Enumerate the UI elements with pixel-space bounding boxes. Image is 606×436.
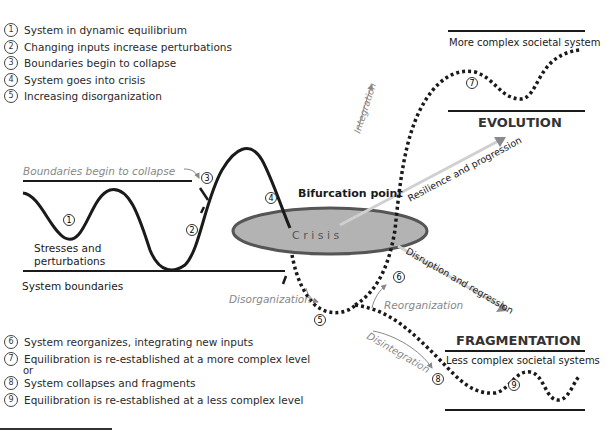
resilience-arrow	[340, 138, 504, 225]
svg-text:1: 1	[66, 216, 71, 225]
marker-icon-4: 4	[266, 193, 277, 204]
integration-path	[355, 50, 580, 305]
less-complex-label: Less complex societal systems	[446, 355, 600, 366]
marker-icon-6: 6	[394, 272, 405, 283]
marker-icon-5: 5	[315, 315, 326, 326]
svg-text:2: 2	[189, 226, 194, 235]
reorganization-label: Reorganization	[384, 299, 463, 311]
marker-icon-2: 2	[187, 225, 198, 236]
more-complex-label: More complex societal system	[449, 37, 600, 48]
marker-icon-8: 8	[433, 374, 444, 385]
system-boundaries-label: System boundaries	[22, 280, 123, 292]
marker-icon-1: 1	[64, 215, 75, 226]
marker-icon-7: 7	[467, 78, 478, 89]
svg-text:8: 8	[435, 375, 440, 384]
svg-text:5: 5	[317, 316, 322, 325]
bifurcation-diagram: Boundaries begin to collapse Stresses an…	[0, 0, 606, 436]
resilience-label: Resilience and progression	[406, 134, 523, 203]
svg-text:3: 3	[204, 174, 209, 183]
stresses-label-2: perturbations	[34, 255, 105, 267]
bifurcation-point-label: Bifurcation point	[298, 187, 403, 200]
svg-text:6: 6	[396, 273, 401, 282]
collapse-pointer-arrow	[184, 169, 199, 178]
marker-icon-3: 3	[202, 173, 213, 184]
disintegration-label: Disintegration	[365, 330, 432, 375]
svg-text:4: 4	[268, 194, 273, 203]
boundaries-collapse-label: Boundaries begin to collapse	[23, 165, 175, 177]
broken-boundary-upper	[200, 188, 208, 200]
broken-boundary-lower	[283, 276, 286, 284]
stresses-label-1: Stresses and	[34, 242, 101, 254]
crisis-label: C r i s i s	[292, 229, 340, 242]
evolution-label: EVOLUTION	[478, 115, 562, 130]
svg-text:7: 7	[469, 79, 474, 88]
broken-boundary-upper	[201, 207, 204, 213]
svg-text:9: 9	[511, 381, 516, 390]
disorganization-label: Disorganization	[229, 293, 311, 305]
marker-icon-9: 9	[509, 380, 520, 391]
fragmentation-label: FRAGMENTATION	[456, 333, 581, 348]
integration-label: Integration	[351, 81, 378, 134]
